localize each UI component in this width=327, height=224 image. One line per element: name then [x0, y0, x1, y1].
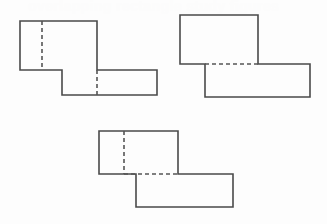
figure-canvas — [0, 0, 327, 224]
figure-1-outline — [20, 21, 157, 95]
figure-3-outline — [99, 131, 233, 207]
figure-2 — [180, 15, 310, 97]
figure-3 — [99, 131, 233, 207]
figure-2-outline — [180, 15, 310, 97]
figure-1 — [20, 21, 157, 95]
